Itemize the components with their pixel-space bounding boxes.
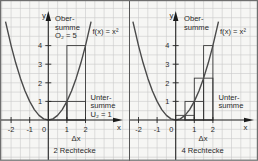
y-tick-label: 1 — [38, 97, 42, 106]
delta-x-label: Δx — [199, 134, 208, 143]
x-tick-label: 2 — [211, 125, 215, 134]
y-tick-label: 3 — [38, 60, 42, 69]
panel-caption: 4 Rechtecke — [182, 146, 224, 155]
y-tick-label: 3 — [165, 60, 169, 69]
x-tick-label: -2 — [135, 125, 142, 134]
y-tick-label: 2 — [38, 79, 42, 88]
x-tick-label: -1 — [154, 125, 161, 134]
untersumme-label-line2: summe — [219, 101, 244, 110]
x-tick-label: -1 — [26, 125, 33, 134]
x-tick-label: 0 — [169, 125, 173, 134]
x-tick-label: 0 — [42, 125, 46, 134]
y-tick-label: 2 — [165, 79, 169, 88]
y-axis-label: y — [42, 11, 46, 20]
untersumme-value: U₂ = 1 — [91, 110, 112, 119]
x-tick-label: 1 — [192, 125, 196, 134]
x-tick-label: 1 — [65, 125, 69, 134]
obersumme-value: O₂ = 5 — [55, 31, 77, 40]
riemann-sum-figure: y x -2 -1 0 1 2 1 2 3 4 Ober- summe O₂ =… — [0, 0, 258, 161]
y-tick-label: 4 — [165, 41, 169, 50]
function-label: f(x) = x² — [93, 27, 119, 36]
obersumme-label-line2: summe — [184, 23, 209, 32]
delta-x-label: Δx — [72, 134, 81, 143]
panel-caption: 2 Rechtecke — [54, 146, 96, 155]
y-tick-label: 4 — [38, 41, 42, 50]
x-tick-label: 2 — [83, 125, 87, 134]
x-axis-label: x — [117, 123, 121, 132]
y-tick-label: 1 — [165, 97, 169, 106]
y-axis-label: y — [170, 11, 174, 20]
function-label: f(x) = x² — [220, 27, 246, 36]
x-axis-label: x — [244, 123, 248, 132]
x-tick-label: -2 — [8, 125, 15, 134]
